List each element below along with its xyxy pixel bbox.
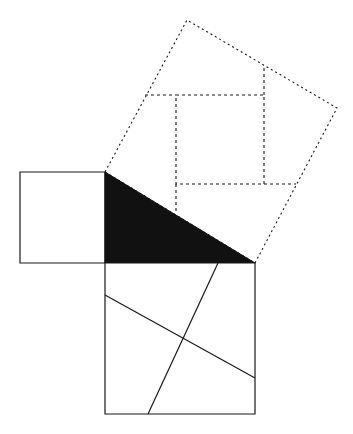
small-square-left [20, 172, 105, 263]
geometry-diagram [0, 0, 353, 434]
large-square-bottom [105, 263, 255, 414]
figure-canvas [0, 0, 353, 434]
